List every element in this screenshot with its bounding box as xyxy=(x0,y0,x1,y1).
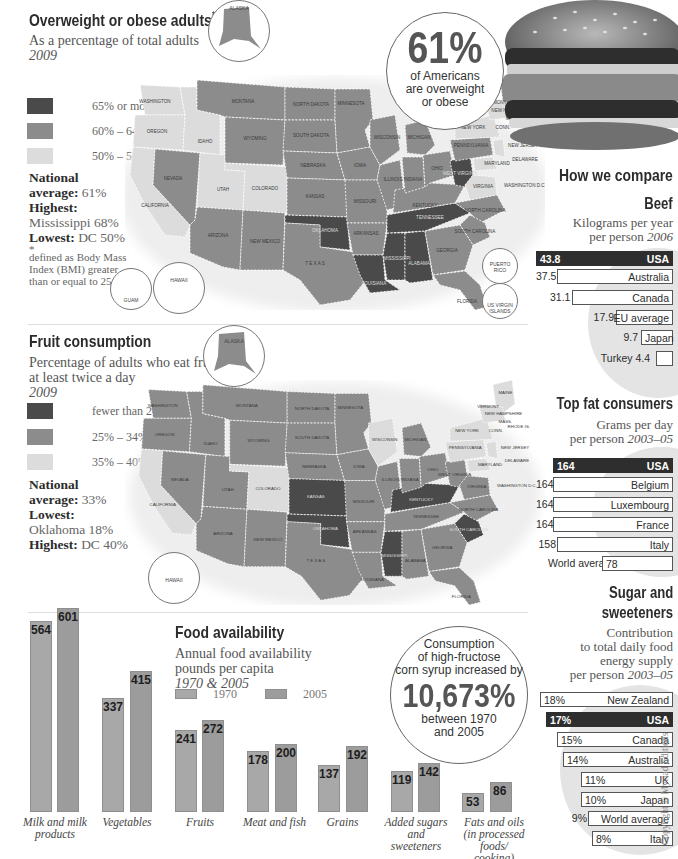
bar-value: 142 xyxy=(419,765,439,779)
label-oregon: OREGON xyxy=(155,432,175,437)
label-delaware: DELAWARE xyxy=(512,157,537,162)
state-minnesota xyxy=(335,89,373,153)
stat-label: National xyxy=(29,477,79,492)
stat-label: Lowest: xyxy=(29,507,75,522)
beef-bar-turkey xyxy=(656,351,673,366)
label-florida: FLORIDA xyxy=(452,594,471,599)
bar-value: 200 xyxy=(276,746,296,760)
obesity-title-text: Overweight or obese adults xyxy=(29,11,212,30)
legend-swatch-light xyxy=(27,148,53,164)
bar-value: 119 xyxy=(392,773,411,787)
section-divider xyxy=(28,612,528,613)
fruit-legend-mid: 25% – 34% xyxy=(27,429,53,445)
beef-turkey-label: Turkey 4.4 xyxy=(592,352,650,364)
label-iowa: IOWA xyxy=(353,464,365,469)
obesity-stats: National average: 61% Highest: Mississip… xyxy=(29,170,125,245)
stat-label: average: xyxy=(29,492,78,507)
sugar-subtitle-text: energy supply xyxy=(570,654,673,668)
label-nevada: NEVADA xyxy=(164,176,183,181)
fat-bar-france: France xyxy=(553,517,673,532)
legend-swatch-1970 xyxy=(175,689,197,699)
label-utah: UTAH xyxy=(217,187,229,192)
bar-country: World average xyxy=(601,813,669,825)
label-texas: T E X A S xyxy=(306,558,325,563)
obesity-legend-mid: 60% – 64% xyxy=(27,123,53,139)
category-label-line: cooking) xyxy=(448,852,540,859)
beef-bar-japan: Japan xyxy=(641,330,673,345)
label-new-hampshire: NEW HAMPSHIRE xyxy=(485,411,523,416)
label-oklahoma: OKLAHOMA xyxy=(312,228,339,233)
bar-value: 337 xyxy=(103,700,123,714)
hawaii-label: HAWAII xyxy=(154,277,204,283)
bar-value: 53 xyxy=(466,795,479,809)
inset-alaska: ALASKA xyxy=(208,0,270,62)
bar-country: EU average xyxy=(614,312,669,324)
label-mississippi: MISSISSIPPI xyxy=(381,553,407,558)
bar-value: 4.4 xyxy=(635,352,650,364)
stat-label: National xyxy=(29,170,79,185)
fat-subtitle: Grams per day per person 2003–05 xyxy=(570,418,673,446)
label-south-dakota: SOUTH DAKOTA xyxy=(295,435,329,440)
label-arkansas: ARKANSAS xyxy=(353,231,378,236)
food-subtitle-text: pounds per capita xyxy=(175,661,312,676)
label-tennessee: TENNESSEE xyxy=(416,215,444,220)
sugar-subtitle-text: to total daily food xyxy=(570,640,673,654)
stat-label: average: xyxy=(29,185,78,200)
category-label-line: and xyxy=(380,828,452,840)
fat-subtitle-text: per person xyxy=(570,431,625,446)
label-california: CALIFORNIA xyxy=(141,203,170,208)
sugar-subtitle: Contribution to total daily food energy … xyxy=(570,626,673,682)
label-minnesota: MINNESOTA xyxy=(338,101,366,106)
stat-label: Highest: xyxy=(29,537,78,552)
label-missouri: MISSOURI xyxy=(354,199,377,204)
label-nevada: NEVADA xyxy=(171,477,189,482)
fruit-legend-low: fewer than 25% xyxy=(27,403,53,419)
bar-value: 158 xyxy=(536,538,556,550)
fruit-inset-alaska: ALASKA xyxy=(203,325,265,387)
bar-value: 14% xyxy=(567,754,588,766)
label-florida: FLORIDA xyxy=(457,299,478,304)
bar-value: 15% xyxy=(561,734,582,746)
fat-bar-usa: 164 USA xyxy=(553,458,673,473)
category-label-line: Vegetables xyxy=(92,816,162,828)
bar-country: Belgium xyxy=(631,479,669,491)
beef-year: 2006 xyxy=(647,229,673,244)
bar-value: 18% xyxy=(544,694,565,706)
bar-country: Italy xyxy=(650,539,669,551)
bar-country: New Zealand xyxy=(607,694,669,706)
bar-country: Japan xyxy=(645,332,674,344)
label-wyoming: WYOMING xyxy=(244,136,267,141)
food-subtitle-text: Annual food availability xyxy=(175,646,312,661)
label-michigan: MICHIGAN xyxy=(408,135,431,140)
bar-value: 241 xyxy=(176,732,196,746)
bar-value: 78 xyxy=(606,558,618,570)
label-iowa: IOWA xyxy=(354,163,367,168)
bar-country: USA xyxy=(647,460,669,472)
label-idaho: IDAHO xyxy=(198,139,213,144)
fat-year: 2003–05 xyxy=(628,431,674,446)
label-virginia: VIRGINIA xyxy=(473,184,494,189)
label-louisiana: LOUISIANA xyxy=(361,577,384,582)
bar-value: 9% xyxy=(570,812,587,824)
label-maryland: MARYLAND xyxy=(478,462,502,467)
label-washington-dc: WASHINGTON D.C. xyxy=(497,483,537,488)
category-label: Added sugars and sweeteners xyxy=(380,816,452,852)
label-utah: UTAH xyxy=(222,487,234,492)
label-north-carolina: NORTH CAROLINA xyxy=(459,507,498,512)
bar-value: 164 xyxy=(557,460,575,472)
highest-value: DC 40% xyxy=(81,537,128,552)
hfcs-callout: Consumption of high-fructose corn syrup … xyxy=(390,626,528,764)
label-georgia: GEORGIA xyxy=(432,545,453,550)
hawaii-label: HAWAII xyxy=(149,577,199,583)
bar-country: Australia xyxy=(628,271,669,283)
callout-text: or obese xyxy=(387,96,503,109)
category-label: Fats and oils (in processed foods/ cooki… xyxy=(448,816,540,859)
obesity-year: 2009 xyxy=(29,48,199,63)
label-new-york: NEW YORK xyxy=(455,428,479,433)
label-vermont: VERMONT xyxy=(477,404,499,409)
bar-value: 17% xyxy=(550,714,571,726)
state-arkansas xyxy=(347,223,387,255)
fruit-inset-hawaii: HAWAII xyxy=(148,552,200,604)
bar-value: 31.1 xyxy=(550,291,570,303)
label-delaware: DELAWARE xyxy=(505,458,529,463)
